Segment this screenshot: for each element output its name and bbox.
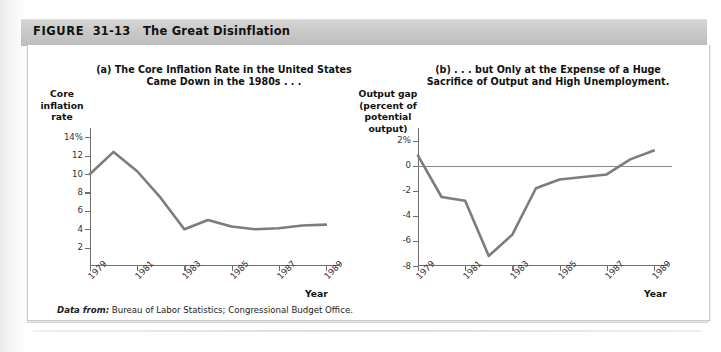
chart-a-series-svg xyxy=(90,128,340,266)
page-bottom-edge xyxy=(33,330,702,332)
chart-a-plot-area: 14%12108642 197919811983198519871989 xyxy=(90,128,340,266)
chart-a-y-axis-title-line1: Core xyxy=(34,88,90,100)
source-label: Data from: xyxy=(57,305,109,315)
chart-b-title: (b) . . . but Only at the Expense of a H… xyxy=(398,64,698,89)
chart-a-title: (a) The Core Inflation Rate in the Unite… xyxy=(74,64,374,89)
y-tick-label: -4 xyxy=(377,210,411,220)
y-tick-label: 8 xyxy=(49,187,83,197)
chart-a-y-axis-title-line3: rate xyxy=(34,111,90,123)
y-tick-label: 0 xyxy=(377,160,411,170)
y-tick-label: 6 xyxy=(49,205,83,215)
chart-b-y-axis-title-line2: (percent of xyxy=(355,100,421,112)
chart-b-plot-area: 2%0-2-4-6-8 197919811983198519871989 xyxy=(418,128,668,266)
chart-a-series-line xyxy=(90,152,326,229)
y-tick-label: -8 xyxy=(377,261,411,271)
y-tick-label: 10 xyxy=(49,169,83,179)
figure-number: 31-13 xyxy=(93,24,131,38)
y-tick-label: 2% xyxy=(377,135,411,145)
chart-b-y-axis-title-line4: output) xyxy=(355,123,421,135)
chart-a-y-axis-title-line2: inflation xyxy=(34,100,90,112)
chart-b-series-line xyxy=(418,151,654,256)
y-tick-label: -2 xyxy=(377,185,411,195)
chart-a-title-line1: (a) The Core Inflation Rate in the Unite… xyxy=(74,64,374,76)
y-tick-label: 12 xyxy=(49,150,83,160)
chart-b-x-axis-title: Year xyxy=(644,288,667,299)
source-text: Bureau of Labor Statistics; Congressiona… xyxy=(112,305,353,315)
chart-a-x-axis-title: Year xyxy=(305,288,328,299)
chart-b-y-axis-title-line3: potential xyxy=(355,111,421,123)
figure-number-label: FIGURE xyxy=(33,24,84,38)
chart-b-title-line1: (b) . . . but Only at the Expense of a H… xyxy=(398,64,698,76)
y-tick-label: 14% xyxy=(49,132,83,142)
chart-a-title-line2: Came Down in the 1980s . . . xyxy=(74,76,374,88)
y-tick-label: 2 xyxy=(49,242,83,252)
y-tick-label: 4 xyxy=(49,224,83,234)
chart-b-series-svg xyxy=(418,128,668,266)
figure-container: FIGURE 31-13 The Great Disinflation (a) … xyxy=(0,0,721,352)
chart-b-y-axis-title: Output gap (percent of potential output) xyxy=(355,88,421,134)
panel-bottom-rule xyxy=(27,322,708,323)
figure-title: FIGURE 31-13 The Great Disinflation xyxy=(33,24,290,38)
source-note: Data from: Bureau of Labor Statistics; C… xyxy=(57,305,353,315)
chart-b-y-axis-title-line1: Output gap xyxy=(355,88,421,100)
y-tick-label: -6 xyxy=(377,235,411,245)
chart-b-title-line2: Sacrifice of Output and High Unemploymen… xyxy=(398,76,698,88)
figure-title-text: The Great Disinflation xyxy=(143,24,290,38)
chart-a-y-axis-title: Core inflation rate xyxy=(34,88,90,123)
